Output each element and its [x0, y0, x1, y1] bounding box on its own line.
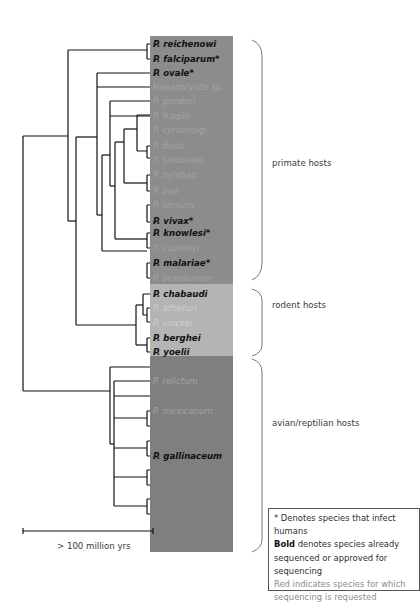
leaf-label: P. hylobati — [153, 167, 197, 183]
leaf-label: P. yoelii — [153, 344, 190, 360]
leaf-label: P. simiovale — [153, 152, 203, 168]
leaf-label: P. simium — [153, 197, 194, 213]
leaf-label: P. vinckei — [153, 315, 193, 331]
scale-bar-label: > 100 million yrs — [57, 541, 131, 551]
leaf-label: P. brasilianum — [153, 270, 213, 286]
leaf-label: P. gonderi — [153, 93, 195, 109]
legend-bold-word: Bold — [274, 539, 295, 549]
leaf-label: P. atheruri — [153, 300, 197, 316]
leaf-label: P. reichenowi — [153, 36, 216, 52]
leaf-label: P. gallinaceum — [153, 448, 222, 464]
legend-bold-note: Bold denotes species already sequenced o… — [274, 538, 419, 578]
leaf-label: P. cynomolgi — [153, 122, 207, 138]
leaf-label: P. relictum — [153, 373, 198, 389]
leaf-label: P. coatneyi — [153, 240, 199, 256]
avian-hosts-label: avian/reptilian hosts — [272, 418, 359, 428]
leaf-label: P. knowlesi* — [153, 225, 210, 241]
legend-asterisk-note: * Denotes species that infect humans — [274, 512, 419, 538]
rodent-hosts-label: rodent hosts — [272, 300, 326, 310]
legend-red-note: Red indicates species for which sequenci… — [274, 578, 419, 604]
primate-hosts-label: primate hosts — [272, 158, 331, 168]
leaf-label: P. mexicanum — [153, 403, 213, 419]
leaf-label: P. malariae* — [153, 255, 210, 271]
legend-box: * Denotes species that infect humans Bol… — [268, 508, 420, 591]
